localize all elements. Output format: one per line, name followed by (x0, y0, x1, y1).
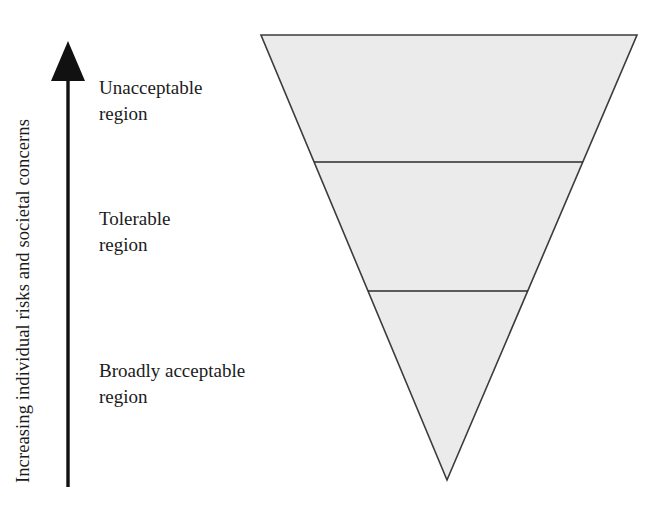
region-label-tolerable-line1: Tolerable (99, 206, 170, 232)
region-label-tolerable-line2: region (99, 232, 170, 258)
region-label-unacceptable-line2: region (99, 101, 202, 127)
region-label-unacceptable: Unacceptable region (99, 75, 202, 127)
region-label-broadly-acceptable-line2: region (99, 384, 245, 410)
region-label-unacceptable-line1: Unacceptable (99, 75, 202, 101)
region-label-broadly-acceptable: Broadly acceptable region (99, 358, 245, 410)
region-label-tolerable: Tolerable region (99, 206, 170, 258)
region-label-broadly-acceptable-line1: Broadly acceptable (99, 358, 245, 384)
